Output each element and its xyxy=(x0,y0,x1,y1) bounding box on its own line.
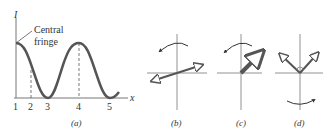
figure: I x Central fringe 1 2 3 4 5 (a) (b) (c) xyxy=(0,0,331,139)
rotation-arrow-cw xyxy=(287,100,314,104)
panel-c-phasor: (c) xyxy=(217,34,262,128)
phasor-arrow-left xyxy=(152,73,177,81)
y-axis-label: I xyxy=(13,9,18,20)
annotation-fringe: fringe xyxy=(34,36,58,47)
tick-1: 1 xyxy=(13,101,18,112)
phasor-arrow-right xyxy=(177,65,202,73)
caption-d: (d) xyxy=(294,118,305,128)
caption-a: (a) xyxy=(71,118,82,128)
rotation-arrow-ccw xyxy=(160,43,188,51)
caption-c: (c) xyxy=(236,118,246,128)
tick-4: 4 xyxy=(76,101,81,112)
rotation-arrow-ccw xyxy=(225,43,252,52)
tick-5: 5 xyxy=(107,101,112,112)
panel-a-intensity-plot: I x Central fringe 1 2 3 4 5 (a) xyxy=(13,9,135,128)
phasor-arrow-left xyxy=(280,54,300,73)
x-axis-label: x xyxy=(129,92,135,103)
annotation-central: Central xyxy=(34,24,64,35)
intensity-curve xyxy=(16,43,119,98)
tick-2: 2 xyxy=(28,101,33,112)
caption-b: (b) xyxy=(171,118,182,128)
phasor-double-arrow xyxy=(241,52,262,73)
annotation-leader xyxy=(16,31,32,43)
panel-b-phasor: (b) xyxy=(147,34,207,128)
tick-3: 3 xyxy=(45,101,50,112)
panel-d-phasor: (d) xyxy=(275,34,323,128)
